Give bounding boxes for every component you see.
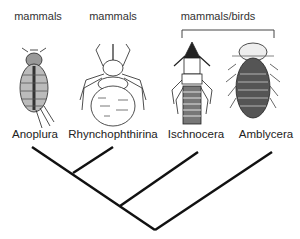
cladogram (32, 147, 272, 230)
taxon-label-rhynchophthirina: Rhynchophthirina (68, 128, 158, 140)
rhynchophthirina-illustration (80, 44, 146, 126)
anoplura-illustration (20, 48, 54, 128)
branch-ischnocera (120, 152, 198, 206)
taxon-label-anoplura: Anoplura (12, 128, 58, 140)
amblycera-illustration (226, 43, 280, 118)
taxon-label-ischnocera: Ischnocera (168, 128, 224, 140)
phylogeny-figure (0, 0, 300, 239)
host-bracket (182, 30, 274, 38)
branch-rhynchophthirina (73, 147, 113, 173)
ischnocera-illustration (172, 42, 212, 124)
branch-amblycera (155, 152, 272, 230)
taxon-label-amblycera: Amblycera (239, 128, 293, 140)
